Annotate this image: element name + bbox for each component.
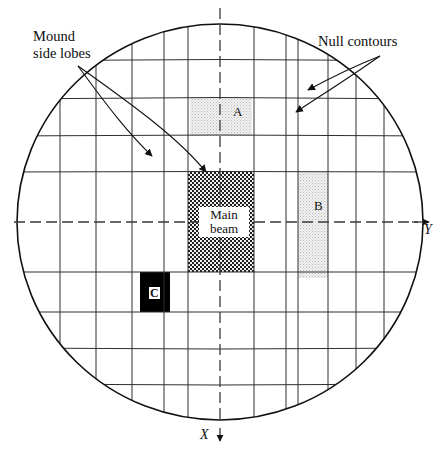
region-b-label: B	[314, 198, 323, 214]
mound-side-lobes-label: Mound side lobes	[33, 28, 91, 62]
mound-side-lobes-line2: side lobes	[33, 45, 91, 62]
figure-canvas: Mound side lobes Null contours A B C Mai…	[0, 0, 440, 457]
main-beam-label-line1: Main	[201, 208, 247, 222]
main-beam-label: Main beam	[199, 207, 249, 237]
region-a-label: A	[233, 104, 242, 120]
region-a-cell	[190, 98, 252, 136]
region-b-cell	[298, 172, 328, 278]
y-axis-label: Y	[424, 222, 432, 238]
x-axis-label: X	[200, 427, 209, 443]
null-contours-label: Null contours	[318, 33, 397, 50]
main-beam-label-line2: beam	[201, 222, 247, 236]
mound-side-lobes-line1: Mound	[33, 28, 91, 45]
region-c-label: C	[149, 287, 160, 299]
